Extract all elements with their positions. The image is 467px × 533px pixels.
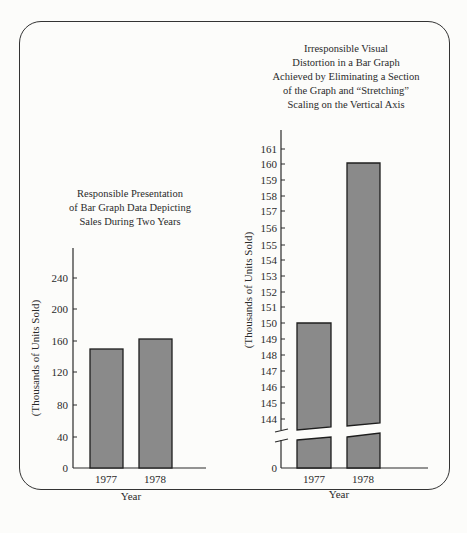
y-tick-label: 145 [261,397,278,409]
x-tick-label: 1977 [95,473,118,485]
y-tick-label: 155 [261,239,278,251]
y-tick-label: 144 [261,413,278,425]
y-tick-label: 153 [261,270,278,282]
left-chart: 240 200 160 120 80 40 0 1977 1978 Year (… [29,248,206,502]
x-tick-label: 1978 [144,473,167,485]
y-tick-label: 120 [52,366,69,378]
y-tick-label: 150 [261,317,278,329]
y-tick-label: 156 [261,222,278,234]
y-tick-label: 154 [261,254,278,266]
y-tick-label: 80 [57,399,69,411]
bar-1977-upper [297,323,331,430]
x-axis-title: Year [121,490,142,502]
right-chart: 161 160 159 158 157 156 155 154 153 152 … [242,130,428,500]
x-tick-label: 1978 [352,473,375,485]
y-axis-title: (Thousands of Units Sold) [29,299,42,416]
y-tick-label: 157 [261,205,278,217]
charts-canvas: 240 200 160 120 80 40 0 1977 1978 Year (… [0,0,467,533]
y-tick-label: 151 [261,301,278,313]
y-tick-label: 159 [261,174,278,186]
y-tick-label: 40 [57,431,69,443]
bar-1978 [139,339,172,468]
y-tick-label: 161 [261,143,278,155]
bar-1977-lower [297,437,331,468]
y-tick-label: 160 [52,335,69,347]
y-tick-label: 158 [261,190,278,202]
bar-1978-upper [347,163,380,426]
y-axis-title: (Thousands of Units Sold) [242,231,255,348]
y-tick-label: 200 [52,303,69,315]
x-axis-title: Year [329,488,350,500]
bar-1977 [90,349,123,468]
y-tick-label: 149 [261,333,278,345]
y-tick-label: 160 [261,158,278,170]
y-tick-label: 0 [272,462,278,474]
y-tick-label: 146 [261,381,278,393]
y-tick-label: 148 [261,349,278,361]
y-tick-label: 147 [261,365,278,377]
y-tick-label: 152 [261,286,278,298]
bar-1978-lower [347,433,380,468]
x-tick-label: 1977 [303,473,326,485]
y-tick-label: 240 [52,272,69,284]
y-tick-label: 0 [63,462,69,474]
